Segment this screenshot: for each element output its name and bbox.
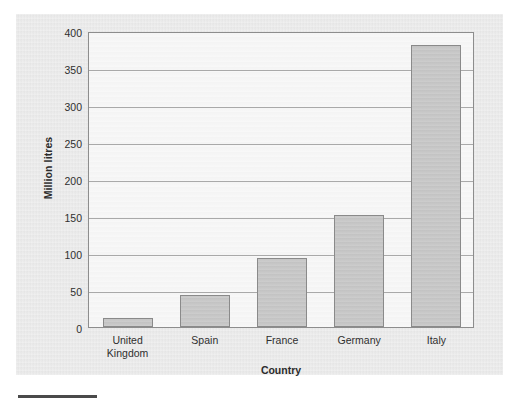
y-axis-tick-label: 350 — [64, 64, 82, 76]
y-axis-tick-label: 300 — [64, 101, 82, 113]
bar-series — [89, 33, 473, 327]
x-axis-tick-label: United Kingdom — [107, 334, 148, 360]
y-axis-tick-label: 100 — [64, 249, 82, 261]
x-axis-tick-label: Italy — [427, 334, 446, 347]
bottom-divider-rule — [18, 395, 97, 398]
x-axis-title: Country — [88, 364, 474, 376]
plot-area: 400350300250200150100500 United KingdomS… — [88, 32, 474, 328]
bar[interactable] — [257, 258, 307, 327]
y-axis-tick-label: 50 — [70, 286, 82, 298]
figure-panel: Million litres 400350300250200150100500 … — [16, 14, 503, 375]
bar[interactable] — [180, 295, 230, 327]
bar[interactable] — [103, 318, 153, 327]
x-axis-tick-label: Germany — [338, 334, 381, 347]
bar[interactable] — [334, 215, 384, 327]
y-axis-tick-label: 400 — [64, 27, 82, 39]
x-axis-tick-label: France — [266, 334, 299, 347]
bar[interactable] — [411, 45, 461, 327]
y-axis-tick-label: 0 — [76, 323, 82, 335]
y-axis-tick-label: 150 — [64, 212, 82, 224]
y-axis-tick-label: 250 — [64, 138, 82, 150]
y-axis-tick-label: 200 — [64, 175, 82, 187]
x-axis-tick-label: Spain — [191, 334, 218, 347]
y-axis-title: Million litres — [42, 108, 54, 228]
